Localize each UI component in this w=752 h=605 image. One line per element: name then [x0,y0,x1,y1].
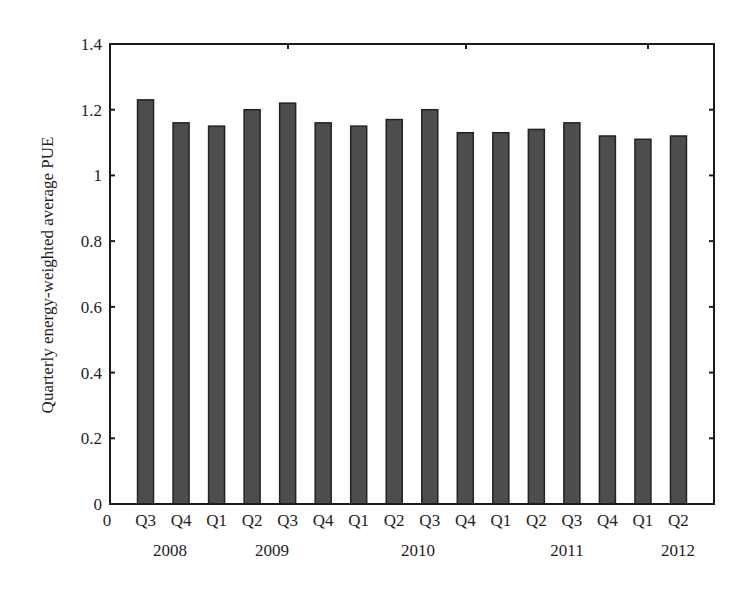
year-label: 2009 [255,541,289,560]
x-tick-label: Q4 [171,511,192,530]
x-tick-label: Q1 [633,511,654,530]
y-tick-label: 0.6 [81,298,102,317]
year-label: 2008 [153,541,187,560]
bar [493,133,509,504]
x-tick-label: Q3 [419,511,440,530]
y-tick-label: 0 [94,495,103,514]
y-axis-title: Quarterly energy-weighted average PUE [38,137,57,414]
x-tick-label: Q1 [206,511,227,530]
bar [670,136,686,504]
bar [138,100,154,504]
bar [528,129,544,504]
bar [457,133,473,504]
bar [564,123,580,504]
x-axis-labels: 0Q3Q4Q1Q2Q3Q4Q1Q2Q3Q4Q1Q2Q3Q4Q1Q2 [103,511,689,530]
y-tick-label: 1 [94,166,103,185]
pue-bar-chart: 00.20.40.60.811.21.4 0Q3Q4Q1Q2Q3Q4Q1Q2Q3… [0,0,752,605]
bar [422,110,438,504]
x-tick-label: Q2 [526,511,547,530]
x-tick-label: Q4 [597,511,618,530]
bar [635,139,651,504]
x-tick-label: Q3 [561,511,582,530]
x-tick-label: Q4 [313,511,334,530]
plot-frame [110,44,714,504]
x-tick-label: Q4 [455,511,476,530]
x-tick-label: Q1 [348,511,369,530]
bars-group [138,100,687,504]
bar [315,123,331,504]
y-tick-label: 0.4 [81,364,103,383]
bar [351,126,367,504]
y-tick-label: 0.2 [81,429,102,448]
year-labels: 20082009201020112012 [153,541,695,560]
year-label: 2012 [661,541,695,560]
bar [599,136,615,504]
x-tick-label: Q2 [668,511,689,530]
x-origin-label: 0 [103,511,112,530]
bar [209,126,225,504]
year-label: 2011 [550,541,583,560]
x-tick-label: Q2 [384,511,405,530]
bar [244,110,260,504]
y-tick-label: 1.2 [81,101,102,120]
y-tick-label: 1.4 [81,35,103,54]
bar [173,123,189,504]
x-tick-label: Q2 [242,511,263,530]
axes-box [110,44,714,504]
bar [280,103,296,504]
x-tick-label: Q1 [490,511,511,530]
bar [386,120,402,504]
y-tick-label: 0.8 [81,232,102,251]
year-label: 2010 [401,541,435,560]
x-tick-label: Q3 [277,511,298,530]
x-tick-label: Q3 [135,511,156,530]
